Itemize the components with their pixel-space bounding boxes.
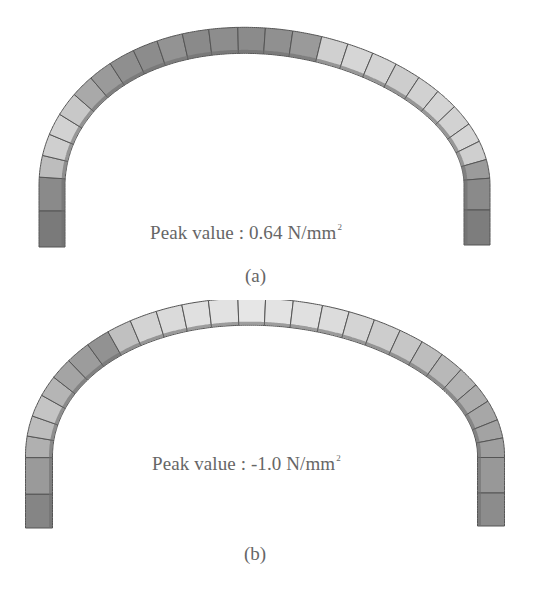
panel-b: Peak value : -1.0 N/mm2 (b) [0, 300, 549, 589]
caption-b: (b) [244, 543, 266, 565]
peak-prefix: Peak value : [152, 453, 251, 474]
caption-a: (a) [245, 265, 266, 287]
arch-block [478, 493, 505, 526]
arch-stress-contour-b [0, 300, 549, 589]
peak-unit-exponent: 2 [337, 222, 342, 232]
arch-block [26, 458, 53, 495]
peak-unit: N/mm [286, 453, 335, 474]
arch-stress-contour-a [0, 0, 549, 300]
peak-value-label-b: Peak value : -1.0 N/mm2 [152, 453, 341, 475]
peak-prefix: Peak value : [150, 222, 249, 243]
peak-value: -1.0 [251, 453, 281, 474]
arch-block [464, 178, 490, 210]
arch-block [39, 211, 65, 247]
peak-unit-exponent: 2 [336, 453, 341, 463]
arch-block [39, 177, 65, 211]
peak-value: 0.64 [249, 222, 283, 243]
arch-block [238, 300, 266, 326]
peak-unit: N/mm [287, 222, 336, 243]
arch-block [464, 210, 490, 245]
peak-value-label-a: Peak value : 0.64 N/mm2 [150, 222, 342, 244]
panel-a: Peak value : 0.64 N/mm2 (a) [0, 0, 549, 300]
arch-block [478, 458, 505, 494]
arch-block [26, 494, 53, 528]
